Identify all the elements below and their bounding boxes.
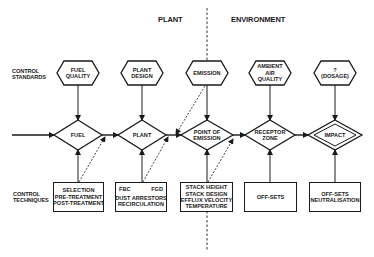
pollution-control-diagram: PLANT ENVIRONMENT CONTROL STANDARDS CONT… xyxy=(0,0,374,257)
technique-box-plant: FBC FGD DUST ARRESTORS RECIRCULATION xyxy=(115,182,167,212)
technique-box-emission: STACK HEIGHT STACK DESIGN EFFLUX VELOCIT… xyxy=(180,182,233,212)
stage-fuel: FUEL xyxy=(62,128,94,142)
fbc-label: FBC xyxy=(119,186,131,192)
standard-emission: EMISSION xyxy=(187,61,227,85)
stage-plant: PLANT xyxy=(126,128,158,142)
technique-box-fuel: SELECTION PRE-TREATMENT POST-TREATMENT xyxy=(53,182,104,212)
technique-box-impact: OFF-SETS NEUTRALISATION xyxy=(309,182,361,212)
fgd-label: FGD xyxy=(151,186,163,192)
region-label-plant: PLANT xyxy=(158,15,183,24)
diagram-graphics xyxy=(0,0,374,257)
row-label-control-standards: CONTROL STANDARDS xyxy=(12,68,46,81)
standard-fuel-quality: FUEL QUALITY xyxy=(58,61,98,85)
stage-receptor-zone: RECEPTOR ZONE xyxy=(252,128,288,142)
standard-dosage: ? (DOSAGE) xyxy=(315,61,355,85)
region-label-environment: ENVIRONMENT xyxy=(231,15,285,24)
standard-ambient-air-quality: AMBIENT AIR QUALITY xyxy=(250,61,290,85)
technique-box-receptor: OFF-SETS xyxy=(244,182,297,212)
standard-plant-design: PLANT DESIGN xyxy=(122,61,162,85)
stage-impact: IMPACT xyxy=(319,128,351,142)
row-label-control-techniques: CONTROL TECHNIQUES xyxy=(13,191,49,204)
stage-point-of-emission: POINT OF EMISSION xyxy=(189,128,225,142)
